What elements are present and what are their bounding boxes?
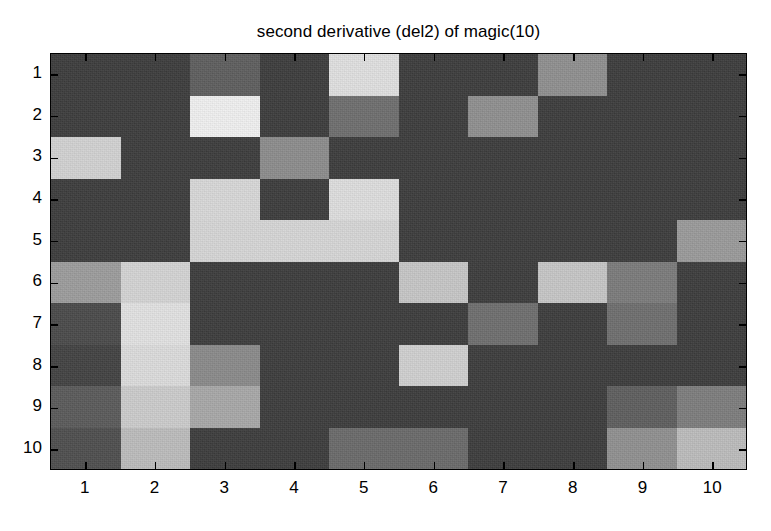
y-tick-label: 6: [4, 271, 42, 291]
heatmap-cell: [329, 179, 399, 221]
x-tick-label: 8: [548, 478, 598, 498]
heatmap-cell: [51, 179, 121, 221]
heatmap-cell: [538, 303, 608, 345]
heatmap-cell: [468, 137, 538, 179]
y-tick: [51, 449, 58, 451]
heatmap-cell: [468, 386, 538, 428]
y-tick: [739, 199, 746, 201]
y-tick: [739, 158, 746, 160]
y-tick: [739, 283, 746, 285]
heatmap-cell: [51, 96, 121, 138]
y-tick-label: 4: [4, 188, 42, 208]
y-tick-label: 3: [4, 146, 42, 166]
x-tick-label: 2: [130, 478, 180, 498]
x-tick: [294, 54, 296, 61]
x-tick: [573, 462, 575, 469]
y-tick: [51, 408, 58, 410]
x-tick-label: 6: [408, 478, 458, 498]
heatmap-cell: [468, 303, 538, 345]
x-tick: [225, 462, 227, 469]
heatmap-cell: [677, 137, 747, 179]
heatmap-cell: [399, 137, 469, 179]
heatmap-cell: [121, 262, 191, 304]
x-tick: [503, 462, 505, 469]
heatmap-cell: [190, 96, 260, 138]
heatmap-cell: [677, 262, 747, 304]
x-tick: [573, 54, 575, 61]
heatmap-cell: [260, 386, 330, 428]
heatmap-cell: [190, 345, 260, 387]
heatmap-cell: [121, 137, 191, 179]
heatmap-axes[interactable]: [50, 53, 747, 470]
heatmap-cell: [538, 137, 608, 179]
y-tick: [51, 283, 58, 285]
heatmap-cell: [677, 54, 747, 96]
x-tick-label: 3: [199, 478, 249, 498]
x-tick: [155, 54, 157, 61]
y-tick: [739, 366, 746, 368]
heatmap-cell: [399, 303, 469, 345]
x-tick: [712, 462, 714, 469]
y-tick-label: 8: [4, 355, 42, 375]
heatmap-cell: [399, 220, 469, 262]
heatmap-cell: [121, 96, 191, 138]
heatmap-grid: [51, 54, 746, 469]
heatmap-cell: [190, 303, 260, 345]
heatmap-cell: [607, 386, 677, 428]
heatmap-cell: [51, 137, 121, 179]
heatmap-cell: [677, 220, 747, 262]
heatmap-cell: [51, 303, 121, 345]
x-tick-label: 10: [687, 478, 737, 498]
y-tick-label: 2: [4, 105, 42, 125]
x-tick: [643, 54, 645, 61]
heatmap-cell: [399, 386, 469, 428]
heatmap-cell: [260, 220, 330, 262]
heatmap-cell: [190, 386, 260, 428]
heatmap-cell: [260, 96, 330, 138]
heatmap-cell: [607, 303, 677, 345]
heatmap-cell: [538, 96, 608, 138]
x-tick: [155, 462, 157, 469]
heatmap-cell: [538, 179, 608, 221]
y-tick: [51, 241, 58, 243]
heatmap-cell: [677, 428, 747, 470]
heatmap-cell: [468, 345, 538, 387]
heatmap-cell: [190, 220, 260, 262]
heatmap-cell: [607, 220, 677, 262]
heatmap-cell: [190, 262, 260, 304]
heatmap-cell: [607, 96, 677, 138]
y-tick-label: 9: [4, 396, 42, 416]
heatmap-cell: [51, 220, 121, 262]
y-tick-label: 7: [4, 313, 42, 333]
y-tick: [739, 324, 746, 326]
y-tick: [739, 116, 746, 118]
heatmap-cell: [399, 179, 469, 221]
x-tick: [225, 54, 227, 61]
heatmap-cell: [51, 345, 121, 387]
heatmap-cell: [329, 303, 399, 345]
y-tick: [739, 408, 746, 410]
heatmap-cell: [677, 345, 747, 387]
heatmap-cell: [121, 303, 191, 345]
x-tick-label: 7: [478, 478, 528, 498]
y-tick-label: 1: [4, 63, 42, 83]
heatmap-cell: [677, 179, 747, 221]
x-tick: [364, 462, 366, 469]
heatmap-cell: [190, 179, 260, 221]
x-tick: [434, 54, 436, 61]
heatmap-cell: [538, 386, 608, 428]
heatmap-cell: [329, 137, 399, 179]
heatmap-cell: [399, 345, 469, 387]
y-tick: [739, 74, 746, 76]
figure-canvas: second derivative (del2) of magic(10) 12…: [0, 0, 771, 531]
heatmap-cell: [607, 345, 677, 387]
y-tick: [739, 449, 746, 451]
y-tick: [51, 74, 58, 76]
y-tick: [51, 324, 58, 326]
x-tick-label: 4: [269, 478, 319, 498]
heatmap-cell: [329, 386, 399, 428]
x-tick: [364, 54, 366, 61]
x-tick-label: 1: [60, 478, 110, 498]
heatmap-cell: [468, 179, 538, 221]
heatmap-cell: [329, 345, 399, 387]
